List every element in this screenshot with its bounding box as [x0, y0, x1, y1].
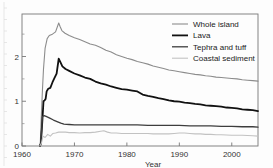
x-tick-label: 1960	[13, 150, 31, 159]
legend-label: Coastal sediment	[193, 54, 256, 63]
x-tick-label: 2000	[223, 150, 241, 159]
x-axis-tick-labels: 19601970198019902000	[13, 150, 241, 159]
data-series-layer	[40, 23, 258, 146]
line-chart: 19601970198019902000 012 Year Whole isla…	[0, 0, 273, 168]
series-line	[40, 131, 258, 146]
legend-label: Tephra and tuff	[193, 43, 247, 52]
x-tick-label: 1990	[170, 150, 188, 159]
y-axis-ticks	[22, 34, 26, 146]
legend-label: Whole island	[193, 20, 239, 29]
y-tick-label: 0	[15, 142, 20, 151]
cropped-left-axis-artifact	[4, 2, 7, 166]
figure-container: 19601970198019902000 012 Year Whole isla…	[0, 0, 273, 168]
chart-legend: Whole islandLavaTephra and tuffCoastal s…	[172, 20, 256, 63]
legend-label: Lava	[193, 31, 211, 40]
y-axis-tick-labels: 012	[15, 53, 20, 151]
x-tick-label: 1980	[118, 150, 136, 159]
x-axis-ticks	[22, 143, 232, 147]
series-line	[40, 23, 258, 146]
y-tick-label: 2	[15, 53, 20, 62]
x-tick-label: 1970	[66, 150, 84, 159]
y-tick-label: 1	[15, 97, 20, 106]
series-line	[40, 116, 258, 146]
x-axis-label: Year	[145, 160, 162, 168]
